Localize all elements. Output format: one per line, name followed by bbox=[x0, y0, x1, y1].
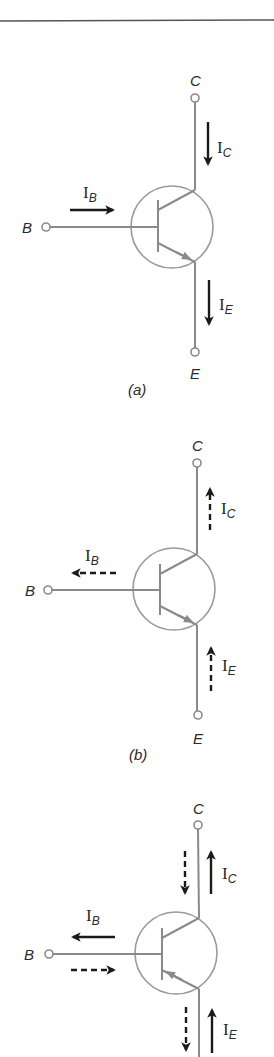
base-label: B bbox=[25, 582, 35, 599]
collector-current-label: IC bbox=[222, 864, 237, 886]
base-terminal bbox=[44, 586, 52, 594]
collector-label: C bbox=[193, 800, 204, 817]
panel-a: C IC B IB IE E (a) bbox=[22, 72, 234, 398]
panel-caption: (a) bbox=[128, 381, 146, 398]
emitter-terminal bbox=[194, 711, 202, 719]
emitter-arrow-icon bbox=[167, 972, 182, 980]
collector-current-label: IC bbox=[217, 138, 232, 160]
emitter-current-label: IE bbox=[223, 1020, 238, 1042]
emitter-current-label: IE bbox=[219, 295, 234, 317]
panel-c: C IC B IB IE bbox=[24, 800, 238, 1057]
collector-terminal bbox=[191, 94, 199, 102]
base-current-label: IB bbox=[83, 183, 97, 205]
collector-lead bbox=[162, 918, 199, 938]
top-rule bbox=[0, 20, 274, 21]
base-terminal bbox=[42, 223, 50, 231]
collector-terminal bbox=[194, 821, 202, 829]
collector-label: C bbox=[190, 72, 201, 89]
emitter-label: E bbox=[193, 730, 204, 747]
collector-lead bbox=[158, 190, 195, 210]
transistor-current-figure: C IC B IB IE E (a) C IC B bbox=[0, 0, 274, 1057]
collector-label: C bbox=[192, 437, 203, 454]
base-label: B bbox=[24, 946, 34, 963]
emitter-label: E bbox=[190, 365, 201, 382]
panel-b: C IC B IB IE E (b) bbox=[25, 437, 237, 763]
emitter-arrow-icon bbox=[176, 252, 190, 259]
base-label: B bbox=[22, 219, 32, 236]
emitter-current-label: IE bbox=[222, 656, 237, 678]
emitter-arrow-icon bbox=[178, 615, 192, 622]
collector-wire bbox=[198, 829, 199, 918]
collector-current-label: IC bbox=[221, 499, 236, 521]
emitter-terminal bbox=[191, 348, 199, 356]
base-terminal bbox=[45, 950, 53, 958]
panel-caption: (b) bbox=[129, 746, 147, 763]
collector-lead bbox=[160, 554, 197, 574]
collector-terminal bbox=[193, 459, 201, 467]
base-current-label: IB bbox=[86, 906, 100, 928]
base-current-label: IB bbox=[85, 546, 99, 568]
